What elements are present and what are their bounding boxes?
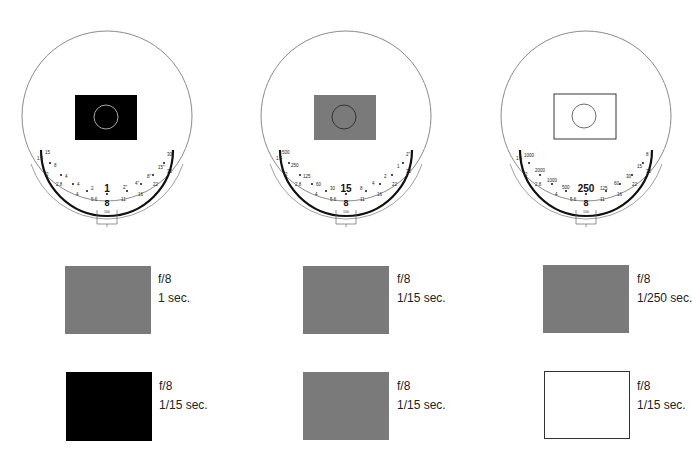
svg-text:2": 2" xyxy=(123,185,128,190)
exposure-label-r1c1: f/8 1 sec. xyxy=(158,270,190,308)
svg-text:2: 2 xyxy=(285,172,288,177)
aperture-label: f/8 xyxy=(637,377,686,396)
svg-text:125: 125 xyxy=(600,186,608,191)
svg-text:8": 8" xyxy=(147,174,152,179)
svg-text:4: 4 xyxy=(372,181,375,186)
svg-text:22: 22 xyxy=(392,182,398,187)
iso-value: 100 xyxy=(104,210,110,214)
exposure-result-swatch-r2c1 xyxy=(66,372,152,441)
svg-text:2.8: 2.8 xyxy=(535,182,542,187)
svg-text:11: 11 xyxy=(360,197,365,202)
shutter-value: 250 xyxy=(578,183,595,194)
shutter-label: 1/15 sec. xyxy=(637,396,686,415)
shutter-value: 15 xyxy=(340,183,352,194)
svg-text:500: 500 xyxy=(282,150,290,155)
svg-text:16: 16 xyxy=(138,192,144,197)
svg-text:2": 2" xyxy=(406,152,411,157)
exposure-result-swatch-r1c3 xyxy=(543,265,629,333)
aperture-label: f/8 xyxy=(158,270,190,289)
svg-text:30: 30 xyxy=(626,174,632,179)
svg-text:5.6: 5.6 xyxy=(570,197,577,202)
svg-text:1000: 1000 xyxy=(524,153,535,158)
svg-text:5.6: 5.6 xyxy=(91,197,98,202)
exposure-label-r1c2: f/8 1/15 sec. xyxy=(397,270,446,308)
svg-text:2.8: 2.8 xyxy=(295,182,302,187)
aperture-label: f/8 xyxy=(159,377,208,396)
svg-text:8: 8 xyxy=(360,186,363,191)
aperture-label: f/8 xyxy=(637,270,692,289)
dial-3-graphic: 100020001000 500 1256030 158 1.422.8 45.… xyxy=(500,30,672,240)
svg-text:1: 1 xyxy=(397,164,400,169)
aperture-label: f/8 xyxy=(397,270,446,289)
iso-value: 100 xyxy=(583,210,589,214)
svg-text:2: 2 xyxy=(91,186,94,191)
light-meter-dial-2: 500250125 6030 842 12" 1.422.8 45.611 16… xyxy=(260,30,432,240)
iso-value: 100 xyxy=(343,210,349,214)
svg-text:30": 30" xyxy=(167,152,174,157)
svg-text:22: 22 xyxy=(632,182,638,187)
svg-text:22: 22 xyxy=(153,182,159,187)
svg-text:32: 32 xyxy=(646,169,652,174)
aperture-value: 8 xyxy=(343,198,348,208)
svg-text:4: 4 xyxy=(65,174,68,179)
exposure-result-swatch-r2c2 xyxy=(303,372,389,440)
svg-text:16: 16 xyxy=(617,192,623,197)
svg-text:15": 15" xyxy=(158,165,165,170)
svg-text:2: 2 xyxy=(525,172,528,177)
svg-text:60: 60 xyxy=(316,182,322,187)
svg-text:16: 16 xyxy=(377,192,383,197)
exposure-label-r2c3: f/8 1/15 sec. xyxy=(637,377,686,415)
svg-text:8: 8 xyxy=(646,152,649,157)
shutter-label: 1 sec. xyxy=(158,289,190,308)
svg-text:125: 125 xyxy=(303,174,311,179)
svg-text:1000: 1000 xyxy=(547,178,558,183)
svg-text:2.8: 2.8 xyxy=(56,182,63,187)
exposure-result-swatch-r2c3 xyxy=(544,371,630,439)
svg-text:32: 32 xyxy=(406,169,412,174)
svg-text:11: 11 xyxy=(600,197,605,202)
exposure-result-swatch-r1c1 xyxy=(65,266,151,334)
svg-text:500: 500 xyxy=(562,185,570,190)
shutter-value: 1 xyxy=(104,183,110,194)
exposure-result-swatch-r1c2 xyxy=(303,266,389,334)
svg-text:2: 2 xyxy=(46,172,49,177)
metered-scene-box xyxy=(554,94,616,139)
svg-text:2: 2 xyxy=(384,174,387,179)
svg-text:2000: 2000 xyxy=(535,168,546,173)
light-meter-dial-1: 1584 42 2"4"8" 15"30" 1.422.8 45.611 162… xyxy=(21,30,193,240)
svg-text:15: 15 xyxy=(637,164,643,169)
aperture-value: 8 xyxy=(583,198,588,208)
metered-scene-box xyxy=(75,95,137,140)
svg-text:5.6: 5.6 xyxy=(330,197,337,202)
exposure-label-r1c3: f/8 1/250 sec. xyxy=(637,270,692,308)
svg-text:60: 60 xyxy=(614,181,620,186)
svg-text:1.4: 1.4 xyxy=(37,156,44,161)
exposure-label-r2c2: f/8 1/15 sec. xyxy=(397,377,446,415)
dial-1-graphic: 1584 42 2"4"8" 15"30" 1.422.8 45.611 162… xyxy=(21,30,193,240)
svg-text:30: 30 xyxy=(330,186,336,191)
svg-text:32: 32 xyxy=(167,169,173,174)
svg-text:1.4: 1.4 xyxy=(516,156,523,161)
svg-text:15: 15 xyxy=(45,150,51,155)
svg-text:11: 11 xyxy=(121,197,126,202)
shutter-label: 1/250 sec. xyxy=(637,289,692,308)
exposure-label-r2c1: f/8 1/15 sec. xyxy=(159,377,208,415)
svg-text:1.4: 1.4 xyxy=(276,156,283,161)
aperture-value: 8 xyxy=(104,198,109,208)
light-meter-dial-3: 100020001000 500 1256030 158 1.422.8 45.… xyxy=(500,30,672,240)
dial-2-graphic: 500250125 6030 842 12" 1.422.8 45.611 16… xyxy=(260,30,432,240)
shutter-label: 1/15 sec. xyxy=(397,289,446,308)
aperture-label: f/8 xyxy=(397,377,446,396)
shutter-label: 1/15 sec. xyxy=(159,396,208,415)
shutter-label: 1/15 sec. xyxy=(397,396,446,415)
svg-text:4": 4" xyxy=(135,181,140,186)
svg-text:250: 250 xyxy=(291,163,299,168)
svg-text:4: 4 xyxy=(77,182,80,187)
metered-scene-box xyxy=(314,95,376,140)
svg-text:8: 8 xyxy=(54,163,57,168)
